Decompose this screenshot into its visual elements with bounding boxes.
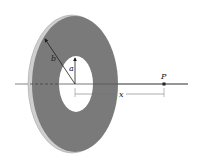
- point-p-marker: [163, 83, 166, 86]
- annulus-diagram: b a x P: [0, 0, 197, 160]
- diagram-canvas: b a x P: [0, 0, 197, 160]
- label-a: a: [69, 64, 74, 73]
- label-b: b: [51, 54, 56, 63]
- label-p: P: [160, 72, 167, 81]
- label-x: x: [119, 90, 124, 99]
